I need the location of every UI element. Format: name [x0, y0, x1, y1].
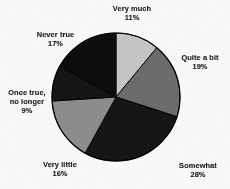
pie-chart-figure: Very much 11% Quite a bit 19% Somewhat 2…: [0, 0, 230, 189]
pie-label-once-true-percent: 9%: [0, 106, 54, 115]
pie-label-very-little: Very little 16%: [31, 160, 89, 178]
pie-label-once-true-line1: Once true,: [0, 88, 54, 97]
pie-label-quite-a-bit-percent: 19%: [171, 62, 229, 71]
pie-label-never-true-percent: 17%: [25, 39, 86, 48]
pie-label-very-little-text: Very little: [31, 160, 89, 169]
pie-label-very-much-percent: 11%: [101, 13, 163, 22]
pie-slices-group: [52, 33, 180, 161]
pie-label-never-true: Never true 17%: [25, 30, 86, 48]
pie-label-quite-a-bit: Quite a bit 19%: [171, 53, 229, 71]
pie-label-once-true-no-longer: Once true, no longer 9%: [0, 88, 54, 116]
pie-label-somewhat: Somewhat 28%: [168, 161, 228, 179]
pie-label-never-true-text: Never true: [25, 30, 86, 39]
pie-label-once-true-line2: no longer: [0, 97, 54, 106]
pie-label-somewhat-percent: 28%: [168, 170, 228, 179]
pie-label-somewhat-text: Somewhat: [168, 161, 228, 170]
pie-label-quite-a-bit-text: Quite a bit: [171, 53, 229, 62]
pie-label-very-much-text: Very much: [101, 4, 163, 13]
pie-label-very-little-percent: 16%: [31, 169, 89, 178]
pie-label-very-much: Very much 11%: [101, 4, 163, 22]
